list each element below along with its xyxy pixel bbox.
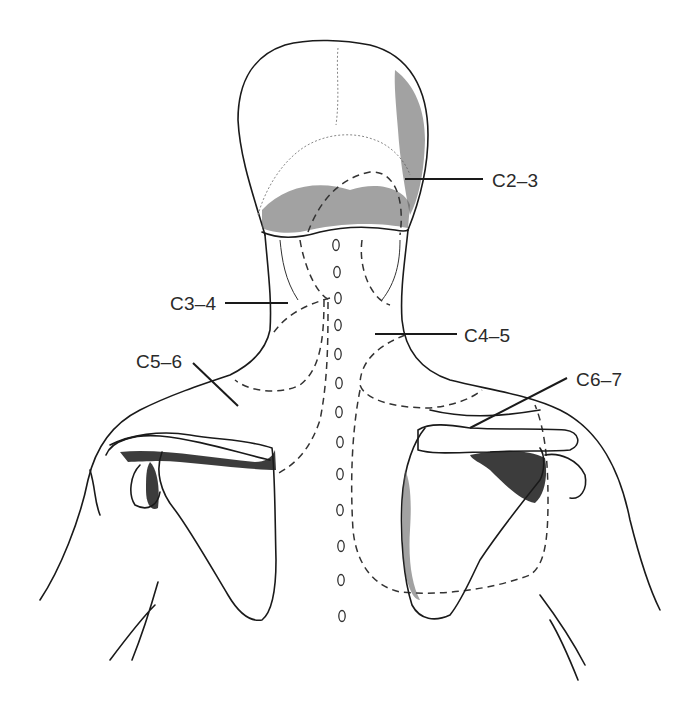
neck-inner-right [382,240,400,300]
right-scapula-hatch [402,470,420,600]
right-humeral-head [545,454,586,498]
left-scapula-spine-shadow [120,450,276,470]
sagittal-suture [336,48,338,125]
neck-right [402,230,660,610]
anatomy-figure: C2–3 C3–4 C4–5 C5–6 C6–7 [0,0,689,709]
right-acromion [418,425,578,453]
leader-c6-7 [470,378,567,428]
zone-c5-6-left [275,302,328,475]
label-c6-7: C6–7 [576,369,622,391]
right-scapula-spine-shadow [470,451,546,503]
spinous-processes [333,240,345,622]
label-c5-6: C5–6 [136,351,182,373]
zone-c3-4 [300,240,390,305]
neck-inner-left [280,240,298,300]
occipital-shading [262,185,410,233]
left-glenoid-shadow [146,462,159,509]
right-trap-line [430,410,540,416]
left-axilla [110,582,158,660]
zone-c4-5-left [235,298,330,391]
label-c3-4: C3–4 [170,293,216,315]
left-arm [90,470,100,515]
label-c2-3: C2–3 [492,170,538,192]
right-axilla [540,595,585,680]
neck-left [40,235,271,600]
posterior-neck-shoulder-drawing [0,0,689,709]
label-c4-5: C4–5 [464,325,510,347]
